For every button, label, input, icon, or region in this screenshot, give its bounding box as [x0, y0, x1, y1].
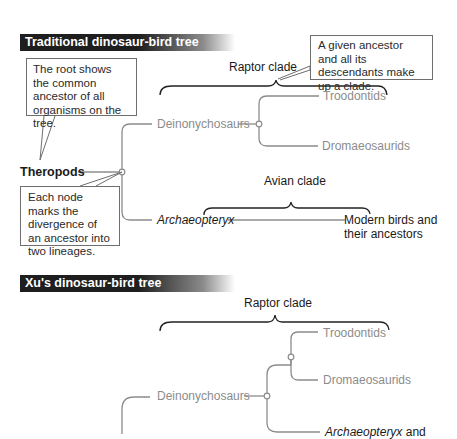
troodontids-label: Troodontids [323, 89, 386, 103]
raptor-clade-label: Raptor clade [229, 60, 297, 74]
theropods-label: Theropods [20, 165, 85, 179]
xu-deinonychosaurs-label: Deinonychosaurs [157, 389, 250, 403]
traditional-tree-title: Traditional dinosaur-bird tree [25, 35, 199, 49]
xu-raptor-clade-label: Raptor clade [244, 296, 312, 310]
xu-tree-header: Xu's dinosaur-bird tree [20, 275, 235, 292]
xu-tree-title: Xu's dinosaur-bird tree [25, 276, 161, 290]
xu-troodontids-label: Troodontids [323, 326, 386, 340]
avian-clade-label: Avian clade [264, 174, 326, 188]
xu-archaeopteryx-label: Archaeopteryx and [325, 425, 426, 439]
archaeopteryx-label: Archaeopteryx [157, 213, 234, 227]
traditional-tree-header: Traditional dinosaur-bird tree [20, 34, 235, 51]
modern-birds-label: Modern birds and their ancestors [344, 213, 437, 241]
dromaeosaurids-label: Dromaeosaurids [322, 139, 410, 153]
clade-callout: A given ancestor and all its descendants… [310, 35, 433, 80]
node-callout: Each node marks the divergence of an anc… [20, 186, 120, 246]
deinonychosaurs-label: Deinonychosaurs [157, 117, 250, 131]
xu-dromaeosaurids-label: Dromaeosaurids [323, 373, 411, 387]
root-callout: The root shows the common ancestor of al… [26, 58, 137, 116]
